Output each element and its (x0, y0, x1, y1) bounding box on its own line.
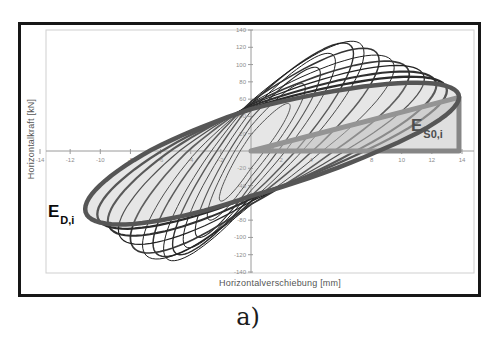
annotation-ed-subscript: D,i (60, 214, 74, 226)
svg-text:-120: -120 (234, 252, 247, 258)
svg-text:10: 10 (398, 157, 405, 163)
svg-text:140: 140 (236, 27, 247, 33)
annotation-ed-base: E (48, 202, 59, 221)
svg-text:14: 14 (459, 157, 466, 163)
svg-text:12: 12 (429, 157, 436, 163)
svg-text:-140: -140 (234, 269, 247, 275)
svg-text:80: 80 (239, 79, 246, 85)
figure: -14-12-10-8-6-4-224681012141401201008060… (0, 0, 492, 358)
svg-text:-10: -10 (96, 157, 105, 163)
svg-text:-12: -12 (66, 157, 75, 163)
svg-text:-14: -14 (36, 157, 45, 163)
svg-text:120: 120 (236, 44, 247, 50)
svg-text:60: 60 (239, 96, 246, 102)
annotation-elastic-strain-energy: ES0,i (411, 117, 442, 137)
x-axis-title: Horizontalverschiebung [mm] (155, 278, 405, 288)
annotation-es0-base: E (411, 116, 422, 135)
figure-caption: a) (208, 303, 288, 331)
svg-text:-80: -80 (237, 217, 246, 223)
y-axis-title: Horizontalkraft [kN] (26, 59, 36, 219)
svg-text:8: 8 (370, 157, 374, 163)
svg-text:-100: -100 (234, 234, 247, 240)
annotation-es0-subscript: S0,i (423, 128, 443, 140)
svg-text:100: 100 (236, 62, 247, 68)
annotation-dissipated-energy: ED,i (48, 203, 73, 223)
